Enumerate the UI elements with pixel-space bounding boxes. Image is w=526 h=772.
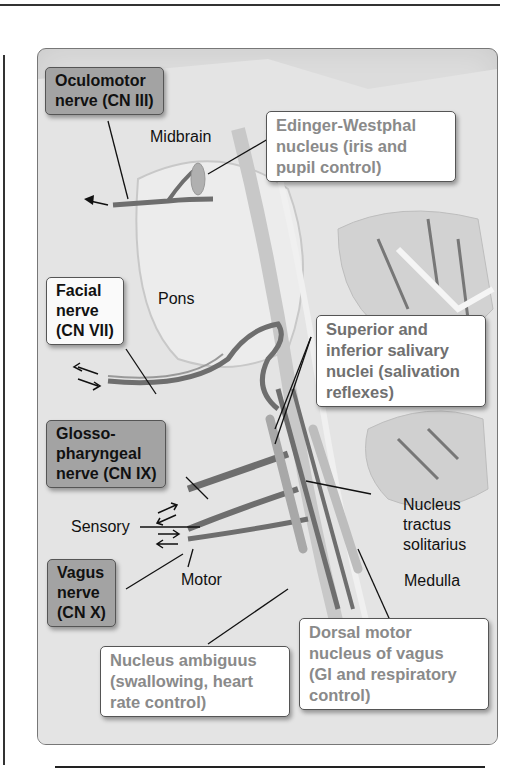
edinger-westphal-label: Edinger-Westphal nucleus (iris and pupil… xyxy=(266,111,456,182)
facial-nerve-label: Facial nerve (CN VII) xyxy=(46,277,124,345)
oculomotor-nerve-label: Oculomotor nerve (CN III) xyxy=(45,67,164,115)
vagus-nerve-label: Vagus nerve (CN X) xyxy=(47,559,116,627)
top-rule xyxy=(0,4,500,6)
sensory-label: Sensory xyxy=(71,517,130,537)
midbrain-label: Midbrain xyxy=(150,127,211,147)
nucleus-tractus-solitarius-label: Nucleus tractus solitarius xyxy=(403,495,466,555)
medulla-label: Medulla xyxy=(404,571,460,591)
glossopharyngeal-nerve-label: Glosso- pharyngeal nerve (CN IX) xyxy=(46,420,166,488)
nucleus-ambiguus-label: Nucleus ambiguus (swallowing, heart rate… xyxy=(100,646,290,717)
dorsal-motor-nucleus-label: Dorsal motor nucleus of vagus (GI and re… xyxy=(299,618,489,710)
salivary-nuclei-label: Superior and inferior salivary nuclei (s… xyxy=(316,315,486,407)
pons-label: Pons xyxy=(158,289,194,309)
motor-label: Motor xyxy=(181,570,222,590)
left-rule xyxy=(3,55,5,765)
brainstem-diagram: Oculomotor nerve (CN III) Midbrain Eding… xyxy=(37,48,498,745)
bottom-rule xyxy=(55,766,485,768)
